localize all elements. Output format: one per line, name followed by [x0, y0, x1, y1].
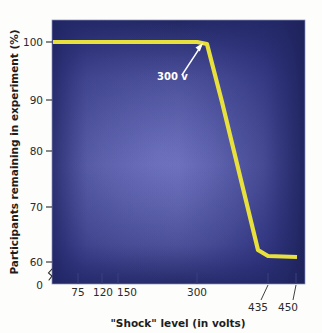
x-tick-label-435: 435	[248, 301, 268, 313]
y-tick-label-100: 100	[23, 36, 43, 48]
y-axis-title: Participants remaining in experiment (%)	[8, 29, 20, 274]
chart-figure: 100 90 80 70 60 0 75 120 150 300 435 450	[0, 0, 322, 333]
x-tick-label-150: 150	[117, 286, 137, 298]
x-tick-label-300: 300	[187, 286, 207, 298]
y-tick-label-70: 70	[30, 201, 43, 213]
y-axis-origin-label: 0	[36, 279, 43, 291]
x-tick-label-450: 450	[278, 301, 298, 313]
x-tick-label-75: 75	[71, 286, 84, 298]
plot-background-hshade	[52, 20, 305, 284]
annotation-label: 300 v	[157, 71, 188, 82]
chart-svg: 100 90 80 70 60 0 75 120 150 300 435 450	[0, 0, 322, 333]
y-tick-label-80: 80	[30, 145, 43, 157]
x-tick-label-120: 120	[93, 286, 113, 298]
plot-area	[52, 20, 305, 284]
y-tick-label-60: 60	[30, 256, 43, 268]
x-axis-title: "Shock" level (in volts)	[110, 317, 245, 329]
y-tick-label-90: 90	[30, 94, 43, 106]
